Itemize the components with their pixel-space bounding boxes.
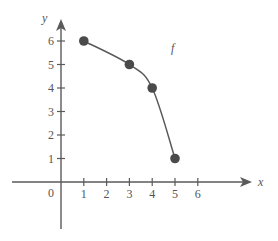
y-tick-label: 1	[48, 152, 54, 166]
data-point	[170, 154, 180, 164]
y-tick-label: 6	[48, 34, 54, 48]
data-point	[125, 60, 135, 70]
y-tick-label: 2	[48, 128, 54, 142]
y-tick-label: 5	[48, 58, 54, 72]
y-tick-label: 3	[48, 105, 54, 119]
function-curve	[84, 41, 175, 159]
x-tick-label: 5	[172, 187, 178, 201]
chart: 123456123456 x y 0 f	[0, 0, 278, 241]
data-point	[79, 36, 89, 46]
x-tick-label: 3	[126, 187, 132, 201]
data-point	[147, 83, 157, 93]
y-axis-label: y	[41, 11, 48, 25]
y-tick-label: 4	[48, 81, 54, 95]
function-label: f	[171, 41, 176, 55]
x-tick-label: 1	[81, 187, 87, 201]
x-axis-label: x	[257, 175, 264, 189]
origin-label: 0	[48, 186, 54, 200]
x-tick-label: 6	[195, 187, 201, 201]
x-tick-label: 4	[149, 187, 155, 201]
x-tick-label: 2	[104, 187, 110, 201]
